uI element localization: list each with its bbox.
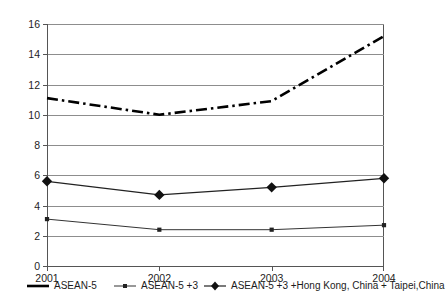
x-tick-mark-2003 (272, 266, 273, 271)
data-point-marker (270, 228, 274, 232)
y-axis-tick-label: 6 (6, 170, 40, 180)
data-point-marker (45, 217, 49, 221)
legend-swatch-diamond-icon (203, 280, 227, 292)
y-axis-tick-label: 2 (6, 231, 40, 241)
data-point-marker (379, 173, 389, 183)
legend-entry-asean5-plus3-hk-taipei: ASEAN-5 +3 +Hong Kong, China + Taipei,Ch… (203, 279, 445, 293)
legend-label: ASEAN-5 +3 +Hong Kong, China + Taipei,Ch… (231, 280, 445, 292)
data-point-marker (266, 182, 276, 192)
y-axis-tick-label: 4 (6, 201, 40, 211)
y-axis-tick-label: 10 (6, 110, 40, 120)
y-axis-tick-label: 12 (6, 80, 40, 90)
legend-label: ASEAN-5 +3 (141, 280, 198, 292)
y-axis-tick-label: 8 (6, 140, 40, 150)
y-axis-labels: 1614121086420 (0, 24, 40, 266)
gridline-0 (47, 266, 384, 267)
series-line-2 (47, 178, 384, 195)
data-point-marker (42, 176, 52, 186)
x-tick-mark-2002 (159, 266, 160, 271)
y-axis-tick-label: 0 (6, 261, 40, 271)
legend-label: ASEAN-5 (54, 280, 97, 292)
x-tick-mark-2004 (383, 266, 384, 271)
data-point-marker (154, 190, 164, 200)
series-layer (47, 24, 384, 266)
chart-legend: ASEAN-5 ASEAN-5 +3 ASEAN-5 +3 +Hong Kong… (0, 279, 412, 297)
plot-wrapper: 1614121086420 2001200220032004 (0, 14, 412, 262)
series-line-1 (47, 219, 384, 230)
legend-entry-asean5-plus3: ASEAN-5 +3 (113, 279, 198, 293)
x-tick-mark-2001 (47, 266, 48, 271)
legend-entry-asean5: ASEAN-5 (26, 279, 97, 293)
plot-area (47, 24, 384, 266)
cropped-title-remnant (0, 0, 412, 9)
legend-swatch-square-icon (113, 280, 137, 292)
data-point-marker (157, 228, 161, 232)
legend-swatch-line-icon (26, 280, 50, 292)
series-line-0 (47, 36, 384, 115)
data-point-marker (382, 223, 386, 227)
y-axis-tick-label: 16 (6, 19, 40, 29)
y-axis-tick-label: 14 (6, 49, 40, 59)
